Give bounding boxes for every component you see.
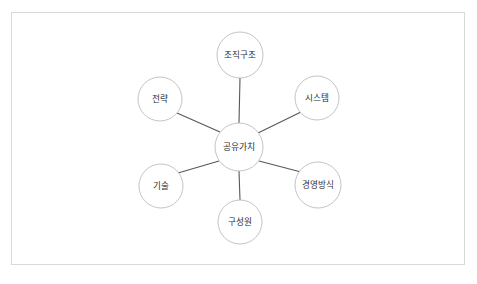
node-satellite[interactable]: 조직구조 xyxy=(217,32,263,78)
node-label: 구성원 xyxy=(228,217,252,227)
edge-connector xyxy=(258,112,301,133)
node-label: 시스템 xyxy=(305,92,329,103)
node-satellite[interactable]: 시스템 xyxy=(295,76,339,120)
node-center[interactable]: 공유가치 xyxy=(215,123,263,171)
node-label: 기술 xyxy=(153,181,169,191)
node-label: 전략 xyxy=(152,93,168,104)
diagram-canvas: 조직구조시스템경영방식구성원기술전략공유가치 xyxy=(0,0,477,284)
node-label: 공유가치 xyxy=(223,141,255,152)
node-satellite[interactable]: 기술 xyxy=(139,164,183,208)
edge-connector xyxy=(239,78,240,123)
nodes-group: 조직구조시스템경영방식구성원기술전략공유가치 xyxy=(138,32,341,244)
node-satellite[interactable]: 경영방식 xyxy=(295,162,341,208)
node-satellite[interactable]: 전략 xyxy=(138,77,182,121)
node-satellite[interactable]: 구성원 xyxy=(218,200,262,244)
edge-connector xyxy=(177,113,220,132)
seven-s-diagram: 조직구조시스템경영방식구성원기술전략공유가치 xyxy=(0,0,477,284)
edge-connector xyxy=(259,161,301,172)
node-label: 조직구조 xyxy=(224,50,256,60)
edge-connector xyxy=(239,171,240,200)
node-label: 경영방식 xyxy=(302,179,334,190)
edge-connector xyxy=(178,161,219,173)
